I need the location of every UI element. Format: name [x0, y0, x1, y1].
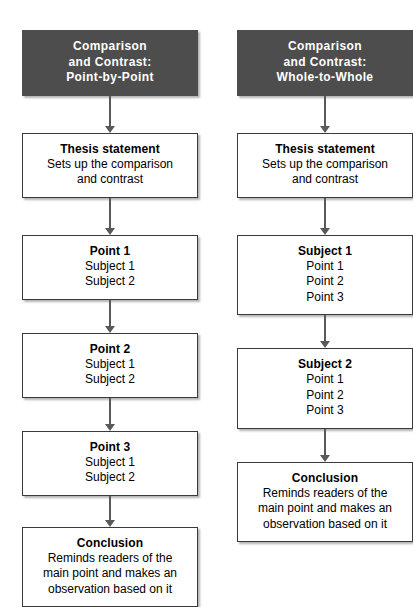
node-point-3: Point 3 Subject 1 Subject 2 — [22, 431, 198, 496]
node-conclusion: Conclusion Reminds readers of the main p… — [22, 527, 198, 607]
node-point-2: Point 2 Subject 1 Subject 2 — [22, 333, 198, 398]
connector-arrow — [105, 398, 116, 431]
node-title: Subject 1 — [244, 243, 406, 259]
arrow-head-icon — [320, 455, 330, 462]
node-body-line: Reminds readers of the — [29, 551, 191, 567]
node-body-line: Point 3 — [244, 290, 406, 306]
node-body-line: main point and makes an — [244, 501, 406, 517]
node-title: Point 2 — [29, 341, 191, 357]
arrow-shaft — [109, 398, 111, 425]
arrow-shaft — [324, 315, 326, 342]
node-title: Subject 2 — [244, 356, 406, 372]
node-body-line: observation based on it — [244, 517, 406, 533]
header-line: Comparison — [244, 39, 406, 55]
connector-arrow — [320, 198, 331, 235]
arrow-head-icon — [105, 424, 115, 431]
node-body-line: Point 1 — [244, 259, 406, 275]
node-body-line: Sets up the comparison — [244, 157, 406, 173]
node-thesis-statement: Thesis statement Sets up the comparison … — [22, 133, 198, 198]
connector-arrow — [320, 96, 331, 133]
node-body-line: Subject 1 — [29, 455, 191, 471]
node-body-line: Point 1 — [244, 372, 406, 388]
arrow-head-icon — [105, 326, 115, 333]
node-body-line: Subject 1 — [29, 259, 191, 275]
node-point-1: Point 1 Subject 1 Subject 2 — [22, 235, 198, 300]
header-line: and Contrast: — [244, 55, 406, 71]
header-line: Whole-to-Whole — [244, 70, 406, 86]
header-line: Comparison — [29, 39, 191, 55]
arrow-shaft — [109, 300, 111, 327]
arrow-shaft — [109, 496, 111, 521]
flowchart-column-point-by-point: Comparison and Contrast: Point-by-Point … — [22, 0, 198, 607]
arrow-head-icon — [105, 520, 115, 527]
arrow-shaft — [109, 198, 111, 229]
node-body-line: Subject 2 — [29, 470, 191, 486]
connector-arrow — [105, 96, 116, 133]
connector-arrow — [105, 496, 116, 527]
node-title: Conclusion — [244, 470, 406, 486]
arrow-shaft — [324, 198, 326, 229]
node-body-line: observation based on it — [29, 582, 191, 598]
connector-arrow — [105, 198, 116, 235]
arrow-head-icon — [320, 126, 330, 133]
node-conclusion: Conclusion Reminds readers of the main p… — [237, 462, 413, 543]
connector-arrow — [320, 429, 331, 462]
node-subject-1: Subject 1 Point 1 Point 2 Point 3 — [237, 235, 413, 316]
header-box-point-by-point: Comparison and Contrast: Point-by-Point — [22, 30, 198, 96]
node-body-line: and contrast — [244, 172, 406, 188]
node-body-line: main point and makes an — [29, 566, 191, 582]
flowchart-column-whole-to-whole: Comparison and Contrast: Whole-to-Whole … — [237, 0, 413, 542]
node-title: Thesis statement — [244, 141, 406, 157]
node-body-line: Subject 2 — [29, 274, 191, 290]
node-subject-2: Subject 2 Point 1 Point 2 Point 3 — [237, 348, 413, 429]
node-body-line: Point 2 — [244, 388, 406, 404]
connector-arrow — [320, 315, 331, 348]
arrow-head-icon — [320, 341, 330, 348]
node-body-line: Subject 2 — [29, 372, 191, 388]
node-body-line: Reminds readers of the — [244, 486, 406, 502]
header-box-whole-to-whole: Comparison and Contrast: Whole-to-Whole — [237, 30, 413, 96]
node-title: Point 1 — [29, 243, 191, 259]
node-body-line: Point 3 — [244, 403, 406, 419]
arrow-shaft — [109, 96, 111, 127]
node-title: Point 3 — [29, 439, 191, 455]
node-body-line: and contrast — [29, 172, 191, 188]
node-body-line: Sets up the comparison — [29, 157, 191, 173]
arrow-head-icon — [105, 228, 115, 235]
header-line: and Contrast: — [29, 55, 191, 71]
arrow-shaft — [324, 96, 326, 127]
header-line: Point-by-Point — [29, 70, 191, 86]
arrow-shaft — [324, 429, 326, 456]
node-title: Thesis statement — [29, 141, 191, 157]
node-thesis-statement: Thesis statement Sets up the comparison … — [237, 133, 413, 198]
connector-arrow — [105, 300, 116, 333]
arrow-head-icon — [320, 228, 330, 235]
node-body-line: Subject 1 — [29, 357, 191, 373]
node-title: Conclusion — [29, 535, 191, 551]
node-body-line: Point 2 — [244, 274, 406, 290]
arrow-head-icon — [105, 126, 115, 133]
